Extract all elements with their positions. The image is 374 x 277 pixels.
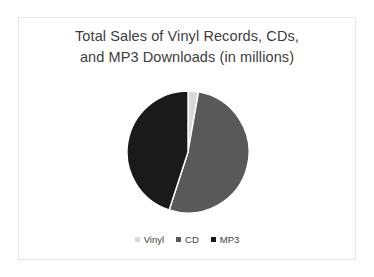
pie-chart-svg xyxy=(126,90,250,214)
chart-legend: Vinyl CD MP3 xyxy=(0,234,374,245)
legend-item-vinyl[interactable]: Vinyl xyxy=(135,234,164,245)
legend-item-cd[interactable]: CD xyxy=(176,234,199,245)
chart-title-line-2: and MP3 Downloads (in millions) xyxy=(30,47,344,68)
legend-label-mp3: MP3 xyxy=(220,234,240,245)
legend-swatch-mp3 xyxy=(211,237,216,242)
slide-canvas: Total Sales of Vinyl Records, CDs, and M… xyxy=(0,0,374,277)
legend-label-vinyl: Vinyl xyxy=(144,234,164,245)
legend-label-cd: CD xyxy=(185,234,199,245)
chart-title: Total Sales of Vinyl Records, CDs, and M… xyxy=(30,26,344,68)
pie-slice-group xyxy=(127,91,249,213)
legend-swatch-cd xyxy=(176,237,181,242)
legend-item-mp3[interactable]: MP3 xyxy=(211,234,240,245)
legend-swatch-vinyl xyxy=(135,237,140,242)
chart-title-line-1: Total Sales of Vinyl Records, CDs, xyxy=(30,26,344,47)
pie-chart xyxy=(126,90,250,214)
